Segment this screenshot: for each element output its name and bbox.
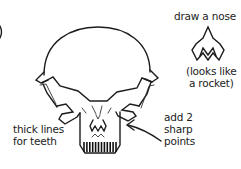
skull-nose (90, 120, 106, 131)
arrow-shaft (128, 125, 161, 141)
label-looks-like-rocket: (looks like a rocket) (186, 65, 237, 89)
teeth (84, 142, 116, 152)
nose-instruction-text: draw a nose (174, 10, 236, 22)
label-add-2-sharp-points: add 2 sharp points (164, 111, 195, 147)
example-nose (192, 27, 224, 60)
nose-note-line-2: a rocket) (186, 77, 237, 89)
label-draw-a-nose: draw a nose (174, 10, 236, 22)
upper-nose-lines (82, 106, 111, 114)
cranium-outline (44, 27, 150, 75)
skull-nose-tip (96, 115, 100, 119)
nose-note-line-1: (looks like (186, 65, 237, 77)
brow-ridge (42, 77, 152, 101)
mouth-zigzag (92, 134, 104, 137)
teeth-instruction-line-1: thick lines (13, 123, 64, 135)
points-instruction-line-3: points (164, 135, 195, 147)
points-instruction-line-2: sharp (164, 123, 195, 135)
points-instruction-line-1: add 2 (164, 111, 195, 123)
left-cheekbone (57, 104, 80, 124)
right-cheek-double (141, 85, 154, 108)
example-nose-inner (200, 48, 216, 56)
left-cheek-outer (43, 84, 57, 107)
edge-fragment (0, 26, 2, 38)
teeth-instruction-line-2: for teeth (13, 135, 64, 147)
label-thick-lines-for-teeth: thick lines for teeth (13, 123, 64, 147)
jaw-outline (80, 112, 120, 153)
